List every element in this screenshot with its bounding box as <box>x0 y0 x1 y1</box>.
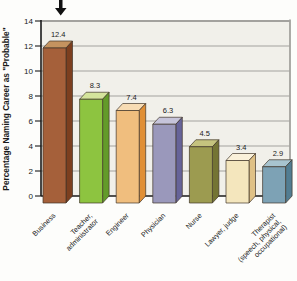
category-label-line: Business <box>30 211 57 238</box>
y-axis-tick-label: 12 <box>24 42 33 51</box>
bar-therapist-speech-physical-occupational <box>263 167 286 203</box>
category-label-line: Nurse <box>184 211 204 231</box>
bar-teacher-administrator <box>80 99 103 203</box>
bar-value-label: 4.5 <box>199 129 209 138</box>
bar-side-nurse <box>212 140 219 203</box>
category-label-line: Engineer <box>104 211 131 238</box>
y-axis-tick-label: 4 <box>29 142 34 151</box>
y-axis-tick-label: 0 <box>29 192 34 201</box>
bar-value-label: 12.4 <box>51 30 66 39</box>
bar-business <box>43 48 66 203</box>
category-label-nurse: Nurse <box>184 211 204 231</box>
y-axis-tick-label: 2 <box>29 167 34 176</box>
category-label-business: Business <box>30 211 57 238</box>
y-axis-tick-label: 8 <box>29 92 34 101</box>
bar-side-physician <box>176 117 183 203</box>
category-label-line: Lawyer, judge <box>203 211 241 249</box>
category-label-therapist-speech-physical-occupational: Therapist(speech, physical,occupational) <box>230 211 289 270</box>
y-axis-tick-label: 14 <box>24 17 33 26</box>
bar-lawyer-judge <box>226 161 249 204</box>
bar-value-label: 3.4 <box>236 143 246 152</box>
bar-side-lawyer-judge <box>249 154 256 204</box>
y-axis-tick-label: 6 <box>29 117 34 126</box>
bar-side-engineer <box>139 104 146 204</box>
bar-value-label: 7.4 <box>126 93 136 102</box>
bar-nurse <box>189 147 212 203</box>
bar-side-business <box>66 41 73 203</box>
category-label-lawyer-judge: Lawyer, judge <box>203 211 241 249</box>
category-label-line: Physician <box>139 211 167 239</box>
careers-probable-bar-chart: Percentage Naming Career as "Probable" 0… <box>0 0 297 281</box>
bar-value-label: 2.9 <box>273 149 283 158</box>
bar-value-label: 6.3 <box>163 106 173 115</box>
bar-side-teacher-administrator <box>103 92 110 203</box>
careers-probable-bar-chart-figure: Percentage Naming Career as "Probable" 0… <box>0 0 297 281</box>
bar-physician <box>153 124 176 203</box>
y-axis-tick-label: 10 <box>24 67 33 76</box>
bar-value-label: 8.3 <box>90 81 100 90</box>
y-axis-title: Percentage Naming Career as "Probable" <box>1 27 11 190</box>
category-label-teacher-administrator: Teacher,administrator <box>58 211 100 253</box>
category-label-engineer: Engineer <box>104 211 131 238</box>
down-arrow-annotation-icon <box>55 0 67 16</box>
bar-engineer <box>116 111 139 204</box>
category-label-physician: Physician <box>139 211 167 239</box>
bar-side-therapist-speech-physical-occupational <box>286 160 293 203</box>
